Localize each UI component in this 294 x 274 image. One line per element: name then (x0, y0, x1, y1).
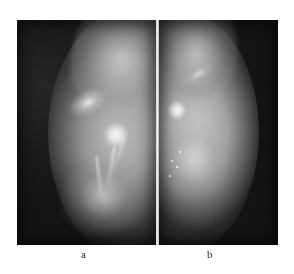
panel-b-microcalcification (179, 151, 181, 153)
panel-b-dense-mass (164, 97, 190, 124)
panel-b-microcalcification (171, 160, 173, 162)
subfigure-label-a: a (81, 247, 86, 261)
panel-a-dense-mass (98, 117, 134, 153)
panel-b-axillary-region (159, 20, 238, 97)
panel-b-microcalcification (169, 175, 171, 177)
panel-b-microcalcification (176, 166, 178, 168)
caption-row: a b (17, 247, 278, 269)
panel-a-mammogram (17, 20, 156, 245)
panel-b-mammogram (159, 20, 278, 245)
figure-root: a b (0, 0, 294, 274)
subfigure-label-b: b (207, 247, 213, 261)
radiograph-plate (17, 20, 278, 245)
